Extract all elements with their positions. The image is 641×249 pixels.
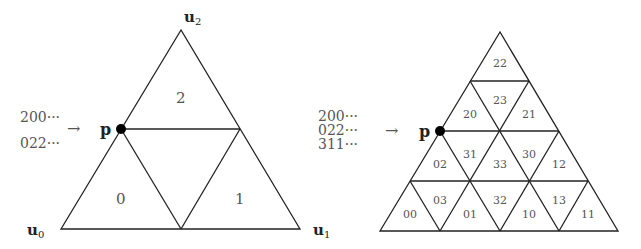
vertex-u0-label: u0 [27, 221, 44, 240]
point-p-label: p [100, 120, 111, 139]
region-label: 30 [522, 148, 536, 161]
region-label: 11 [581, 208, 595, 221]
vertex-u2-label: u2 [184, 8, 201, 27]
region-label: 01 [463, 208, 477, 221]
region-label: 31 [463, 148, 477, 161]
region-label: 1 [235, 190, 245, 208]
left-diagram [61, 30, 300, 229]
region-label: 12 [552, 158, 566, 171]
region-label: 21 [522, 108, 536, 121]
point-p-label: p [419, 122, 430, 141]
arrow-icon: → [385, 121, 398, 140]
region-label: 13 [552, 194, 566, 207]
region-label: 20 [463, 108, 477, 121]
point-p-marker [116, 124, 126, 134]
region-label: 03 [433, 194, 447, 207]
subdivision-edge [181, 129, 240, 229]
region-label: 10 [522, 208, 536, 221]
region-label: 2 [176, 89, 186, 107]
region-label: 0 [116, 190, 126, 208]
region-label: 00 [403, 208, 417, 221]
region-label: 23 [493, 94, 507, 107]
region-label: 22 [493, 57, 507, 70]
point-p-marker [435, 126, 445, 136]
subdivision-edge [121, 129, 181, 229]
code-label: 311··· [318, 136, 358, 152]
vertex-u1-label: u1 [313, 221, 330, 240]
region-label: 02 [433, 158, 447, 171]
region-label: 32 [493, 194, 507, 207]
arrow-icon: → [67, 119, 80, 138]
triangle-subdivision-figure: u2 u0 u1 200··· 022··· → p 2 0 1 200··· … [0, 0, 641, 249]
code-label: 022··· [20, 135, 60, 151]
code-label: 200··· [20, 109, 60, 125]
region-label: 33 [493, 158, 507, 171]
